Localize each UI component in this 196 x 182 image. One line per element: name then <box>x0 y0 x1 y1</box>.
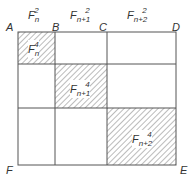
label-fn2-fourth: Fn+24 <box>132 130 152 148</box>
diagram-canvas <box>0 0 196 182</box>
vertex-e: E <box>180 165 187 176</box>
label-fn1-squared: Fn+12 <box>70 6 90 24</box>
vertex-c: C <box>99 22 107 33</box>
label-fn-squared: Fn2 <box>28 6 39 24</box>
label-fn1-fourth: Fn+14 <box>70 80 90 98</box>
vertex-f: F <box>6 165 13 176</box>
label-fn2-squared: Fn+22 <box>127 6 147 24</box>
vertex-b: B <box>52 22 59 33</box>
label-fn-fourth: Fn4 <box>28 40 39 58</box>
vertex-d: D <box>172 22 180 33</box>
vertex-a: A <box>6 22 13 33</box>
